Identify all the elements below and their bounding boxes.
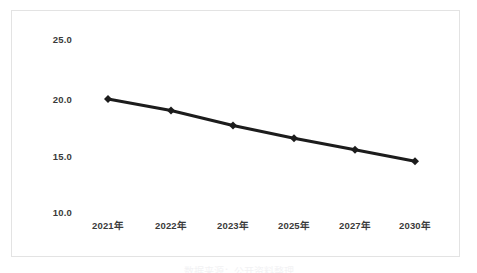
bottom-caption: 数据来源：公开资料整理 <box>0 266 477 273</box>
x-tick-label-1: 2022年 <box>141 218 201 232</box>
x-tick-label-2: 2023年 <box>203 218 263 232</box>
x-tick-label-4: 2027年 <box>325 218 385 232</box>
x-tick-label-0: 2021年 <box>78 218 138 232</box>
x-tick-label-3: 2025年 <box>264 218 324 232</box>
series-line <box>108 99 415 161</box>
x-tick-label-5: 2030年 <box>385 218 445 232</box>
data-point-marker <box>411 157 419 165</box>
data-point-marker <box>290 134 298 142</box>
data-point-marker <box>351 146 359 154</box>
data-point-marker <box>104 95 112 103</box>
data-point-marker <box>167 107 175 115</box>
chart-frame: 25.0 20.0 15.0 10.0 2021年 2022年 2023年 20… <box>11 10 460 257</box>
data-point-marker <box>229 122 237 130</box>
plot-area: 25.0 20.0 15.0 10.0 2021年 2022年 2023年 20… <box>12 11 461 258</box>
